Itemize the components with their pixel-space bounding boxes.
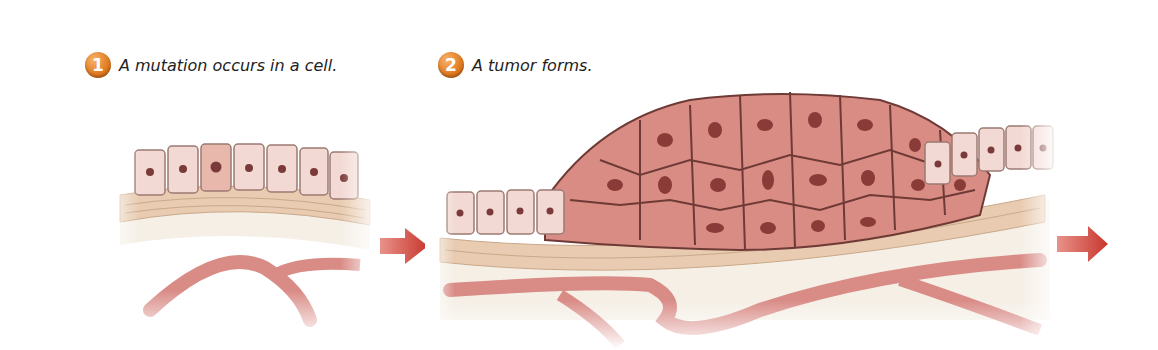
tumor-diagram-illustration [0,0,1158,350]
panel-1-normal-tissue [100,130,380,340]
arrow-right-icon [1057,226,1108,262]
arrow-right-icon [380,228,428,264]
panel-2-tumor-tissue [420,92,1070,350]
